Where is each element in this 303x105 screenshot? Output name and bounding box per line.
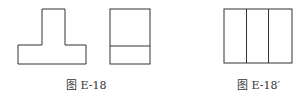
caption-figure-e18: 图 E-18 [66,76,106,92]
caption-figure-e18-prime: 图 E-18′ [237,76,280,92]
answer-view [224,9,292,63]
t-shape-front-view [18,9,86,64]
side-view [110,9,150,64]
